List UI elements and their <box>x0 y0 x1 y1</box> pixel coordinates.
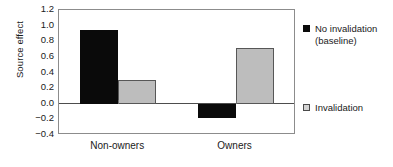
y-axis-tick-label: 0.4 <box>16 67 54 77</box>
legend-label: No invalidation (baseline) <box>315 23 377 46</box>
bar-chart-figure: Source effect 1.21.00.80.60.40.20.0−0.2−… <box>0 0 393 167</box>
y-axis-tick-label: −0.4 <box>16 129 54 139</box>
bar-non-owners-series-2 <box>118 80 156 103</box>
x-axis-tick <box>118 100 119 104</box>
bar-owners-series-1 <box>198 104 236 118</box>
chart-legend: No invalidation (baseline)Invalidation <box>303 9 393 134</box>
y-axis-tick-label: 0.8 <box>16 36 54 46</box>
bar-owners-series-2 <box>236 48 274 104</box>
y-axis-tick-label: 1.0 <box>16 20 54 30</box>
legend-entry-1: No invalidation (baseline) <box>303 23 377 46</box>
legend-entry-2: Invalidation <box>303 102 363 114</box>
bar-non-owners-series-1 <box>80 30 118 104</box>
gray-square-icon <box>303 104 310 111</box>
y-axis-tick-label: 1.2 <box>16 4 54 14</box>
black-square-icon <box>303 25 310 32</box>
y-axis-tick-label: 0.6 <box>16 51 54 61</box>
y-axis-tick-label: 0.0 <box>16 98 54 108</box>
x-axis-category-label: Non-owners <box>57 140 177 151</box>
plot-area <box>58 9 295 134</box>
legend-label: Invalidation <box>315 102 363 114</box>
x-axis-category-label: Owners <box>175 140 295 151</box>
y-axis-tick-label: −0.2 <box>16 114 54 124</box>
y-axis-tick-label: 0.2 <box>16 82 54 92</box>
y-axis-tick-labels: 1.21.00.80.60.40.20.0−0.2−0.4 <box>16 9 54 134</box>
x-axis-tick <box>236 100 237 104</box>
